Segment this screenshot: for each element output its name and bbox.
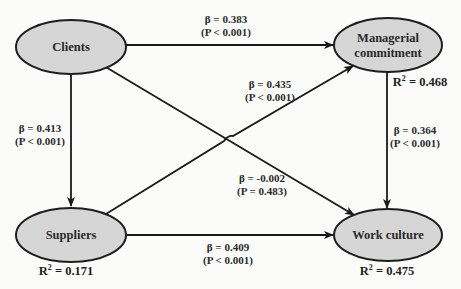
suppliers-r2: R2 = 0.171: [39, 263, 94, 278]
clients-label: Clients: [52, 40, 90, 54]
label-clients-to-work-culture: β = -0.002 (P = 0.483): [237, 172, 287, 198]
node-clients: Clients: [16, 20, 126, 74]
label-suppliers-to-work-culture: β = 0.409 (P < 0.001): [203, 241, 253, 267]
suppliers-label: Suppliers: [46, 228, 97, 242]
managerial-label-line1: Managerial: [357, 31, 419, 45]
beta-clients-to-suppliers: β = 0.413: [19, 122, 62, 134]
edges: [71, 45, 387, 235]
node-suppliers: Suppliers: [16, 208, 126, 262]
label-suppliers-to-managerial: β = 0.435 (P < 0.001): [245, 78, 295, 104]
p-clients-to-managerial: (P < 0.001): [201, 26, 251, 39]
beta-suppliers-to-managerial: β = 0.435: [249, 78, 292, 90]
beta-clients-to-managerial: β = 0.383: [205, 13, 248, 25]
beta-clients-to-work-culture: β = -0.002: [239, 172, 285, 184]
label-managerial-to-work-culture: β = 0.364 (P < 0.001): [390, 124, 440, 150]
path-diagram: Clients Managerial commitment Suppliers …: [0, 0, 461, 289]
label-clients-to-managerial: β = 0.383 (P < 0.001): [201, 13, 251, 39]
node-work-culture: Work culture: [334, 209, 442, 261]
label-clients-to-suppliers: β = 0.413 (P < 0.001): [15, 122, 65, 148]
beta-suppliers-to-work-culture: β = 0.409: [207, 241, 250, 253]
p-managerial-to-work-culture: (P < 0.001): [390, 137, 440, 150]
p-clients-to-work-culture: (P = 0.483): [237, 185, 287, 198]
managerial-r2: R2 = 0.468: [393, 74, 448, 89]
work-culture-r2: R2 = 0.475: [360, 263, 415, 278]
p-suppliers-to-work-culture: (P < 0.001): [203, 254, 253, 267]
beta-managerial-to-work-culture: β = 0.364: [394, 124, 437, 136]
managerial-ellipse: [334, 18, 442, 72]
p-clients-to-suppliers: (P < 0.001): [15, 135, 65, 148]
work-culture-label: Work culture: [352, 228, 424, 242]
p-suppliers-to-managerial: (P < 0.001): [245, 91, 295, 104]
managerial-label-line2: commitment: [354, 46, 422, 60]
node-managerial-commitment: Managerial commitment: [334, 18, 442, 72]
